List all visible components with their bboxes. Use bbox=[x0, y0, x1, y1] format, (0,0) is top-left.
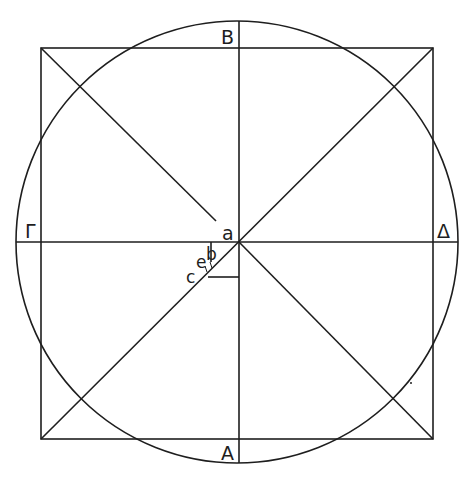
diagonal-tl-segment bbox=[41, 48, 216, 221]
label-Delta: Δ bbox=[437, 220, 450, 242]
diagonal-center-br bbox=[239, 242, 433, 439]
diagram-svg: B A Γ Δ a b e c bbox=[0, 0, 467, 482]
geometric-diagram: B A Γ Δ a b e c bbox=[0, 0, 467, 482]
label-e: e bbox=[196, 252, 206, 272]
label-Gamma: Γ bbox=[25, 220, 36, 242]
label-c: c bbox=[186, 267, 195, 287]
label-B: B bbox=[221, 26, 234, 48]
label-A: A bbox=[221, 442, 234, 464]
label-a: a bbox=[222, 222, 234, 244]
label-b: b bbox=[206, 244, 217, 264]
stray-dot bbox=[410, 382, 412, 384]
